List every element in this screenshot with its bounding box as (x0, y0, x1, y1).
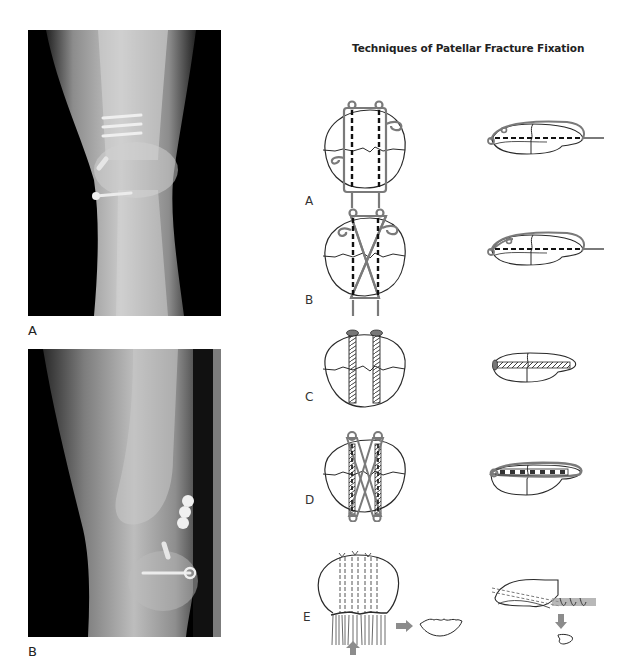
technique-c-lateral-diagram (490, 350, 580, 386)
technique-c-front-diagram (315, 325, 415, 415)
radiograph-label-b: B (28, 645, 37, 658)
technique-label-b: B (305, 294, 313, 306)
technique-d-front-diagram (315, 430, 415, 522)
technique-label-d: D (305, 494, 314, 506)
xray-ap-image (28, 30, 221, 316)
technique-e-lateral-diagram (490, 570, 600, 620)
technique-a-front-diagram (315, 100, 415, 210)
radiograph-label-a: A (28, 324, 37, 337)
xray-lateral-view (28, 349, 221, 637)
arrow-down-icon (555, 614, 567, 630)
technique-b-lateral-diagram (487, 229, 607, 269)
figure-title: Techniques of Patellar Fracture Fixation (352, 42, 584, 54)
bone-fragment-diagram (418, 614, 463, 638)
technique-e-front-diagram (315, 545, 400, 660)
xray-lateral-image (28, 349, 221, 637)
technique-d-lateral-diagram (488, 461, 588, 499)
technique-label-c: C (305, 391, 313, 403)
arrow-right-icon (396, 620, 414, 632)
technique-label-a: A (305, 195, 313, 207)
technique-label-e: E (303, 611, 311, 623)
technique-b-front-diagram (315, 208, 415, 318)
tendon-fragment-diagram (556, 632, 576, 646)
technique-a-lateral-diagram (487, 118, 607, 158)
xray-ap-view (28, 30, 221, 316)
